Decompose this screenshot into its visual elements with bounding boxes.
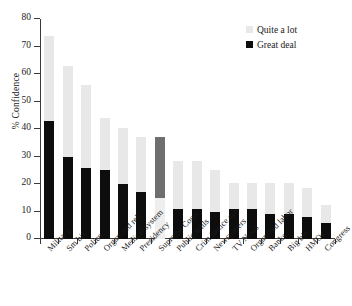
y-axis-tick: 50 [34,101,40,102]
y-axis-tick: 40 [34,128,40,129]
y-axis-tick: 80 [34,18,40,19]
y-axis-tick-label: 80 [22,12,32,22]
y-axis-tick-label: 0 [26,232,31,242]
y-axis-tick: 20 [34,183,40,184]
x-axis-tick [40,239,41,244]
legend-swatch-icon [246,26,253,33]
y-axis-line [40,19,41,239]
y-axis-tick: 30 [34,156,40,157]
bar-segment-quite-a-lot [118,128,128,184]
bar-segment-quite-a-lot [173,161,183,209]
legend-label: Great deal [257,40,296,50]
y-axis-tick-label: 60 [22,67,32,77]
bar-segment-quite-a-lot [210,170,220,211]
y-axis-tick-label: 10 [22,205,32,215]
plot-area: 01020304050607080 [40,19,335,239]
bar-segment-quite-a-lot [321,205,331,223]
y-axis-tick: 70 [34,46,40,47]
bar-segment-quite-a-lot [155,137,165,198]
bar-segment-quite-a-lot [247,183,257,209]
bar-segment-quite-a-lot [44,36,54,121]
bar-segment-quite-a-lot [192,161,202,209]
bar-segment-great-deal [81,168,91,240]
bar-segment-quite-a-lot [63,66,73,157]
y-axis-tick-label: 70 [22,40,32,50]
bar-segment-great-deal [100,170,110,239]
bar-segment-quite-a-lot [81,85,91,168]
y-axis-tick-label: 40 [22,122,32,132]
bar-police [81,85,91,239]
legend-item-quite-a-lot: Quite a lot [246,22,297,37]
y-axis-title: % Confidence [11,51,21,151]
bar-segment-great-deal [44,121,54,239]
bar-segment-quite-a-lot [302,188,312,217]
bar-segment-quite-a-lot [136,137,146,192]
legend-label: Quite a lot [257,25,297,35]
bar-sm-biz [63,66,73,239]
y-axis-tick-label: 50 [22,95,32,105]
bar-segment-quite-a-lot [229,183,239,209]
bar-segment-quite-a-lot [100,118,110,170]
legend-item-great-deal: Great deal [246,37,297,52]
bar-segment-quite-a-lot [265,183,275,215]
y-axis-tick-label: 30 [22,150,32,160]
y-axis-tick-label: 20 [22,177,32,187]
legend-swatch-icon [246,41,253,48]
bar-military [44,36,54,240]
y-axis-tick: 10 [34,211,40,212]
bar-organized-reli [100,118,110,239]
y-axis-tick: 60 [34,73,40,74]
chart-legend: Quite a lotGreat deal [246,22,297,52]
